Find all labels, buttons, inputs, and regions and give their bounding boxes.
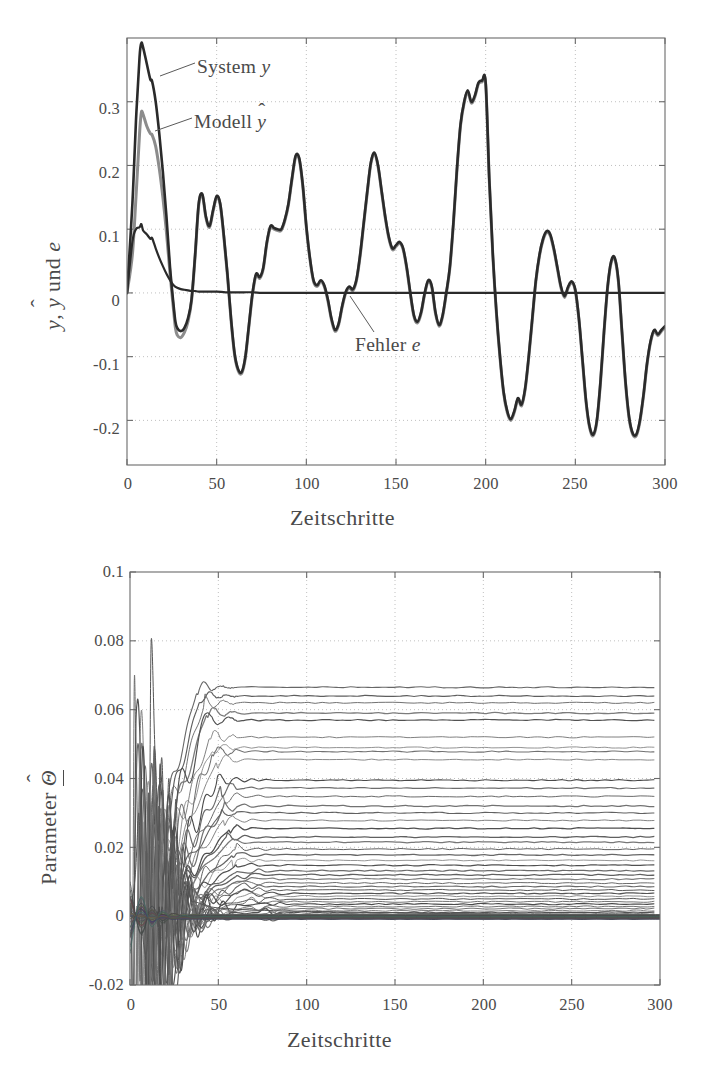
bottom-chart-plot (0, 545, 711, 1088)
bottom-chart-panel: -0.02 0 0.02 0.04 0.06 0.08 0.1 0 50 100… (0, 545, 711, 1088)
annotation-fehler-symbol: e (412, 334, 421, 355)
figure-container: -0.2 -0.1 0 0.1 0.2 0.3 0 50 100 150 200… (0, 0, 711, 1088)
bottom-ytick-label: 0.06 (48, 700, 124, 720)
yaxis-sym-e: e (40, 242, 65, 252)
annotation-fehler-text: Fehler (355, 334, 412, 355)
top-xtick-label: 250 (562, 474, 587, 494)
bottom-xtick-label: 50 (211, 995, 228, 1015)
top-chart-panel: -0.2 -0.1 0 0.1 0.2 0.3 0 50 100 150 200… (0, 0, 711, 545)
top-chart-plot (0, 0, 711, 545)
top-ytick-label: 0.3 (72, 99, 120, 119)
annotation-system-y-symbol: y (261, 56, 270, 77)
bottom-xtick-label: 100 (294, 995, 319, 1015)
top-ytick-label: 0 (72, 291, 120, 311)
bottom-xtick-label: 150 (382, 995, 407, 1015)
bottom-xtick-label: 200 (471, 995, 496, 1015)
bottom-ytick-label: 0.1 (48, 562, 124, 582)
bottom-ytick-label: 0 (48, 906, 124, 926)
bottom-xtick-label: 250 (559, 995, 584, 1015)
annotation-modell-text: Modell (194, 111, 257, 132)
top-xtick-label: 50 (209, 474, 226, 494)
annotation-system-y: System y (197, 56, 270, 78)
top-xtick-label: 150 (383, 474, 408, 494)
bottom-ytick-label: 0.08 (48, 631, 124, 651)
bottom-xtick-label: 0 (127, 995, 135, 1015)
yaxis-parameter-text: Parameter (36, 786, 61, 885)
annotation-system-y-text: System (197, 56, 261, 77)
bottom-xtick-label: 300 (647, 995, 672, 1015)
top-xtick-label: 100 (294, 474, 319, 494)
top-xaxis-title: Zeitschritte (290, 505, 395, 531)
yaxis-sep: , (40, 308, 65, 320)
top-ytick-label: -0.2 (72, 419, 120, 439)
top-ytick-label: 0.2 (72, 163, 120, 183)
bottom-yaxis-title: Parameter ̂Θ (36, 770, 64, 885)
top-ytick-label: -0.1 (72, 355, 120, 375)
yaxis-sym-y: y (40, 320, 65, 330)
yaxis-und: und (40, 252, 65, 298)
annotation-modell-yhat: Modell ̂y (194, 111, 266, 133)
top-yaxis-title: y, ̂y und e (40, 242, 66, 330)
top-ytick-label: 0.1 (72, 227, 120, 247)
bottom-ytick-label: -0.02 (48, 975, 124, 995)
top-xtick-label: 300 (652, 474, 677, 494)
top-xtick-label: 0 (124, 474, 132, 494)
annotation-fehler-e: Fehler e (355, 334, 421, 356)
top-xtick-label: 200 (473, 474, 498, 494)
bottom-xaxis-title: Zeitschritte (287, 1027, 392, 1053)
